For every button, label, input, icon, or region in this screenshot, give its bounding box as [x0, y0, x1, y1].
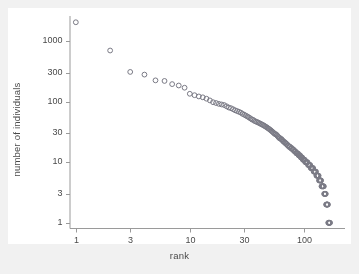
rank-abundance-chart: rank number of individuals 1310301003001… — [0, 0, 359, 274]
x-tick-label: 3 — [111, 235, 151, 245]
x-tick-label: 10 — [171, 235, 211, 245]
x-axis-title: rank — [0, 250, 359, 261]
y-tick-label: 1000 — [22, 35, 63, 45]
y-tick-label: 300 — [22, 67, 63, 77]
y-tick-label: 30 — [22, 127, 63, 137]
y-tick-label: 1 — [22, 217, 63, 227]
y-axis-title: number of individuals — [11, 70, 22, 190]
x-tick-label: 30 — [225, 235, 265, 245]
y-tick-label: 3 — [22, 188, 63, 198]
y-tick-label: 10 — [22, 156, 63, 166]
y-tick-label: 100 — [22, 96, 63, 106]
x-tick-label: 100 — [285, 235, 325, 245]
x-tick-label: 1 — [57, 235, 97, 245]
